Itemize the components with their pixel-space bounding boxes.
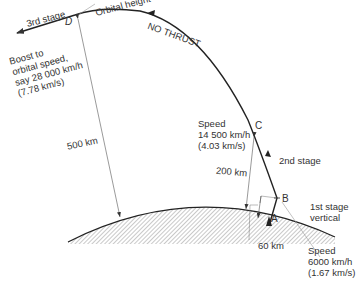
point-a-label: A [271,213,278,224]
point-c-label: C [255,120,262,131]
point-b-label: B [282,193,289,204]
dist-60km-label: 60 km [258,240,284,251]
speed-b-label: Speed 6000 km/h (1.67 km/s) [308,245,356,278]
arrow-no-thrust-icon [147,10,155,16]
dimension-500km [78,19,120,217]
speed-c-label: Speed 14 500 km/h (4.03 km/s) [198,118,250,151]
earth-surface [68,207,335,244]
second-stage-label: 2nd stage [279,155,321,166]
orbital-height-leader [78,4,95,15]
arrow-2nd-stage-icon [265,150,271,157]
first-stage-label: 1st stage vertical [310,201,349,223]
